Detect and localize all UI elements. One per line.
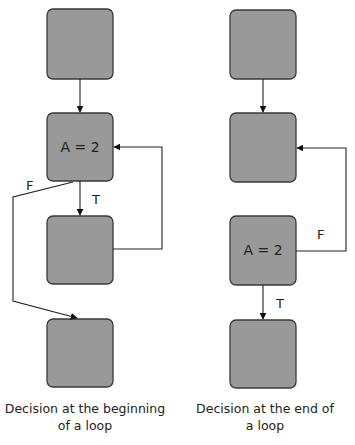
right-box-loop-body	[230, 113, 296, 182]
left-caption-line1: Decision at the beginning	[0, 400, 170, 417]
left-true-label: T	[91, 192, 100, 207]
left-diagram: A = 2 T F	[13, 9, 162, 387]
left-box-exit	[47, 319, 113, 387]
right-box-exit	[230, 320, 296, 388]
right-diagram: A = 2 F T	[230, 10, 346, 388]
left-box-loop-body	[47, 216, 113, 284]
left-box-start	[47, 9, 113, 79]
left-false-label: F	[26, 178, 33, 193]
right-caption-line1: Decision at the end of	[185, 400, 345, 417]
left-caption: Decision at the beginning of a loop	[0, 400, 170, 434]
right-decision-text: A = 2	[243, 242, 282, 258]
right-false-label: F	[317, 227, 324, 242]
right-true-label: T	[275, 296, 284, 311]
right-caption: Decision at the end of a loop	[185, 400, 345, 434]
right-caption-line2: a loop	[185, 417, 345, 434]
right-box-start	[230, 10, 296, 79]
left-arrow-loop-back	[113, 147, 162, 249]
left-decision-text: A = 2	[60, 139, 99, 155]
left-caption-line2: of a loop	[0, 417, 170, 434]
flowchart-canvas: A = 2 T F A = 2 F T	[0, 0, 355, 445]
